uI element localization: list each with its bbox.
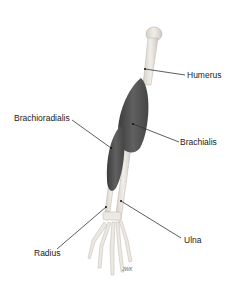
- radius-leader-line: [57, 207, 106, 249]
- artist-signature: JWK: [122, 266, 133, 272]
- anatomy-diagram: Humerus Brachioradialis Brachialis Radiu…: [0, 0, 232, 293]
- label-brachialis: Brachialis: [180, 138, 217, 147]
- label-humerus: Humerus: [187, 71, 221, 80]
- ulna-leader-line: [121, 201, 181, 238]
- label-radius: Radius: [34, 249, 60, 258]
- humerus-bone: [143, 27, 162, 85]
- brachioradialis-leader-line: [72, 120, 111, 148]
- label-ulna: Ulna: [184, 236, 201, 245]
- label-brachioradialis: Brachioradialis: [14, 114, 70, 123]
